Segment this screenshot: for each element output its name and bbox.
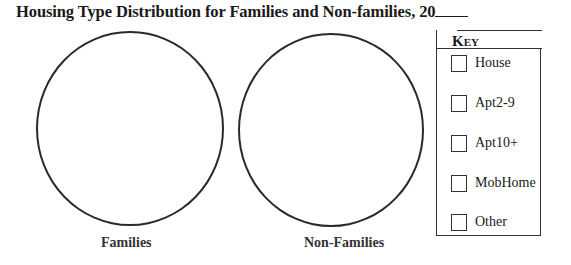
families-pie-chart (36, 31, 224, 226)
legend-item-house: House (451, 54, 511, 72)
legend-item-apt2-9: Apt2-9 (451, 94, 515, 112)
legend-label: Apt10+ (475, 135, 518, 151)
legend-item-apt10: Apt10+ (451, 134, 518, 152)
nonfamilies-label: Non-Families (304, 235, 384, 251)
legend-item-mobhome: MobHome (451, 174, 536, 192)
nonfamilies-pie-chart (238, 33, 424, 227)
chart-title: Housing Type Distribution for Families a… (16, 2, 468, 22)
key-left-border (436, 30, 437, 48)
year-blank[interactable] (435, 2, 468, 17)
legend-swatch-apt10[interactable] (451, 135, 467, 152)
legend-item-other: Other (451, 213, 507, 231)
legend-swatch-other[interactable] (451, 214, 467, 231)
families-label: Families (101, 235, 152, 251)
legend-label: MobHome (475, 175, 536, 191)
legend-label: Other (475, 214, 507, 230)
key-top-border (457, 30, 542, 31)
legend-label: House (475, 55, 511, 71)
chart-title-text: Housing Type Distribution for Families a… (16, 2, 435, 21)
legend-label: Apt2-9 (475, 95, 515, 111)
legend-swatch-apt2-9[interactable] (451, 95, 467, 112)
legend-swatch-house[interactable] (451, 55, 467, 72)
legend-swatch-mobhome[interactable] (451, 175, 467, 192)
